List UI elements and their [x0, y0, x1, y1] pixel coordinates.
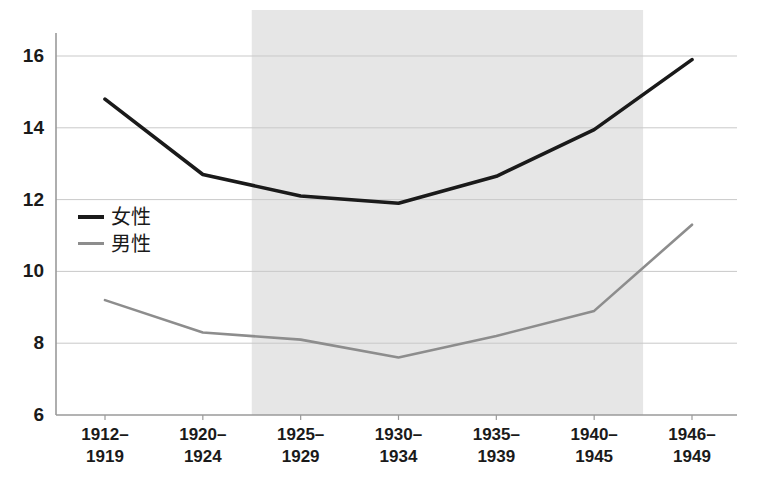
x-tick-line2: 1929 [277, 446, 324, 468]
y-axis-tick-label: 12 [0, 189, 44, 211]
legend-label-female: 女性 [111, 207, 151, 227]
y-axis-tick-label: 16 [0, 45, 44, 67]
x-tick-line1: 1912– [81, 424, 128, 446]
x-tick-line1: 1920– [179, 424, 226, 446]
legend-line-swatch-male-icon [78, 242, 104, 245]
x-axis-tick-label: 1946–1949 [668, 424, 715, 469]
x-axis-tick-label: 1930–1934 [375, 424, 422, 469]
x-axis-tick-label: 1940–1945 [571, 424, 618, 469]
x-tick-line1: 1935– [473, 424, 520, 446]
x-tick-line2: 1924 [179, 446, 226, 468]
x-tick-line1: 1930– [375, 424, 422, 446]
x-tick-line2: 1934 [375, 446, 422, 468]
x-tick-line2: 1919 [81, 446, 128, 468]
y-axis-tick-label: 8 [0, 332, 44, 354]
x-tick-line1: 1925– [277, 424, 324, 446]
x-tick-line1: 1940– [571, 424, 618, 446]
y-axis-tick-label: 6 [0, 404, 44, 426]
x-axis-tick-label: 1925–1929 [277, 424, 324, 469]
y-axis-tick-label: 10 [0, 260, 44, 282]
line-chart: 1614121086 1912–19191920–19241925–192919… [0, 0, 761, 489]
x-axis-tick-label: 1920–1924 [179, 424, 226, 469]
legend-item-male: 男性 [78, 230, 151, 257]
legend-label-male: 男性 [111, 234, 151, 254]
x-tick-line2: 1949 [668, 446, 715, 468]
y-axis-tick-label: 14 [0, 117, 44, 139]
x-axis-tick-label: 1935–1939 [473, 424, 520, 469]
legend-item-female: 女性 [78, 203, 151, 230]
x-tick-line2: 1939 [473, 446, 520, 468]
x-axis-tick-label: 1912–1919 [81, 424, 128, 469]
shaded-band-group [252, 10, 643, 415]
x-tick-line1: 1946– [668, 424, 715, 446]
chart-legend: 女性 男性 [78, 203, 151, 257]
legend-line-swatch-female-icon [78, 215, 104, 219]
x-tick-line2: 1945 [571, 446, 618, 468]
shaded-period-band [252, 10, 643, 415]
